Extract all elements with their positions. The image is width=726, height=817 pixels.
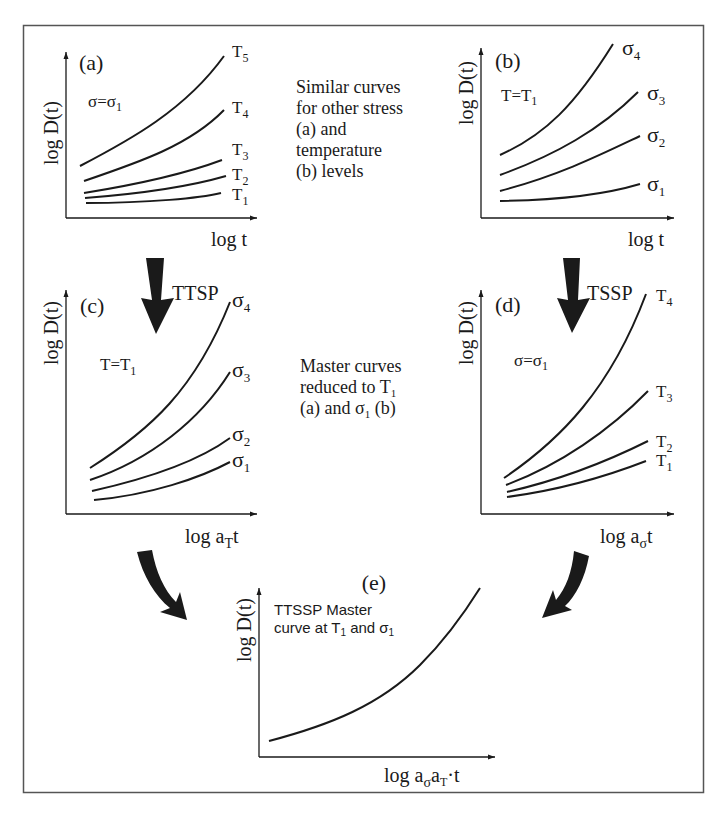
curve-T1 — [507, 461, 646, 497]
curved-arrow-right-icon — [542, 551, 589, 618]
panel-tag: (c) — [80, 293, 104, 318]
panel-b: log D(t) log t (b) T=T1 σ4 σ3 σ2 σ1 — [455, 35, 674, 251]
curve-T4 — [84, 110, 224, 181]
svg-text:(a) and: (a) and — [296, 119, 346, 140]
x-axis-label: log t — [628, 228, 665, 251]
curve-sigma1 — [94, 462, 230, 500]
condition-label: T=T1 — [501, 86, 537, 108]
svg-text:σ1: σ1 — [647, 171, 665, 199]
svg-text:T1: T1 — [232, 185, 248, 208]
svg-text:σ1: σ1 — [232, 447, 250, 475]
svg-text:σ4: σ4 — [232, 287, 251, 315]
ttsp-label: TTSP — [172, 282, 219, 304]
panel-tag: (e) — [362, 570, 386, 595]
tssp-label: TSSP — [587, 282, 633, 304]
curve-labels: σ4 σ3 σ2 σ1 — [622, 35, 665, 199]
ttssp-diagram: log D(t) log t (a) σ=σ1 T5 T4 T3 T2 T1 S… — [0, 0, 726, 817]
panel-tag: (d) — [495, 292, 521, 317]
caption-top: Similar curves for other stress (a) and … — [296, 77, 403, 182]
y-axis-label: log D(t) — [40, 101, 63, 165]
svg-text:(a) and σ1 (b): (a) and σ1 (b) — [300, 398, 396, 420]
x-axis-label: log aσt — [600, 525, 653, 551]
svg-text:σ4: σ4 — [622, 35, 641, 63]
condition-label: T=T1 — [100, 355, 136, 378]
curve-sigma3 — [90, 372, 230, 480]
curve-labels: T4 T3 T2 T1 — [656, 286, 672, 474]
y-axis-label: log D(t) — [233, 598, 256, 662]
down-arrow-icon — [557, 258, 590, 333]
panel-tag: (a) — [79, 50, 103, 75]
down-arrow-icon — [141, 258, 174, 334]
svg-text:σ3: σ3 — [232, 357, 250, 385]
svg-text:T4: T4 — [656, 286, 672, 309]
svg-text:T5: T5 — [232, 42, 248, 65]
panel-c: log D(t) log aTt (c) T=T1 σ4 σ3 σ2 σ1 — [40, 287, 257, 551]
svg-text:temperature: temperature — [296, 140, 382, 160]
y-axis-label: log D(t) — [455, 301, 478, 365]
y-axis-label: log D(t) — [455, 61, 478, 125]
curve-T1 — [86, 193, 221, 203]
svg-text:curve at T1 and σ1: curve at T1 and σ1 — [274, 619, 395, 638]
condition-label: σ=σ1 — [514, 351, 548, 373]
svg-text:reduced to T1: reduced to T1 — [300, 377, 396, 399]
condition-label: σ=σ1 — [88, 92, 122, 114]
x-axis-label: log aσaT·t — [384, 764, 460, 790]
svg-text:Similar curves: Similar curves — [296, 77, 400, 97]
svg-text:TTSSP Master: TTSSP Master — [274, 601, 372, 618]
curve-sigma2 — [92, 438, 230, 491]
svg-text:T3: T3 — [232, 140, 248, 163]
curve-sigma1 — [500, 184, 640, 201]
svg-text:σ3: σ3 — [647, 80, 665, 108]
ttsp-arrow: TTSP — [141, 258, 219, 334]
svg-text:(b) levels: (b) levels — [296, 161, 363, 182]
curve-labels: T5 T4 T3 T2 T1 — [232, 42, 248, 208]
caption-middle: Master curves reduced to T1 (a) and σ1 (… — [300, 356, 401, 420]
x-axis-label: log aTt — [185, 525, 239, 551]
svg-text:for other stress: for other stress — [296, 98, 403, 118]
panel-a: log D(t) log t (a) σ=σ1 T5 T4 T3 T2 T1 — [40, 42, 257, 251]
y-axis-label: log D(t) — [40, 301, 63, 365]
master-curve-note: TTSSP Master curve at T1 and σ1 — [274, 601, 395, 638]
svg-text:T4: T4 — [232, 98, 248, 121]
curved-arrow-left-icon — [137, 550, 187, 620]
panel-tag: (b) — [495, 48, 521, 73]
panel-d: log D(t) log aσt (d) σ=σ1 T4 T3 T2 T1 — [455, 286, 674, 551]
svg-text:Master curves: Master curves — [300, 356, 401, 376]
curve-labels: σ4 σ3 σ2 σ1 — [232, 287, 251, 475]
curve-sigma4 — [90, 302, 230, 468]
svg-text:T3: T3 — [656, 382, 672, 405]
svg-text:σ2: σ2 — [232, 421, 250, 449]
svg-text:σ2: σ2 — [647, 122, 665, 150]
x-axis-label: log t — [211, 228, 248, 251]
panel-e: (e) log D(t) log aσaT·t TTSSP Master cur… — [233, 570, 495, 790]
curve-T3 — [84, 160, 222, 193]
tssp-arrow: TSSP — [557, 258, 633, 333]
